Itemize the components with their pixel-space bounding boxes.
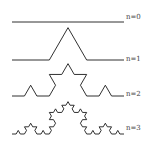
- koch-curve-n2: [12, 64, 124, 96]
- label-n1: n=1: [126, 55, 141, 63]
- koch-curve-n1: [12, 28, 124, 60]
- label-n0: n=0: [126, 13, 141, 21]
- label-n2: n=2: [126, 90, 141, 98]
- label-n3: n=3: [126, 124, 141, 132]
- koch-curve-n3: [12, 102, 124, 134]
- koch-diagram: n=0 n=1 n=2 n=3: [0, 0, 152, 152]
